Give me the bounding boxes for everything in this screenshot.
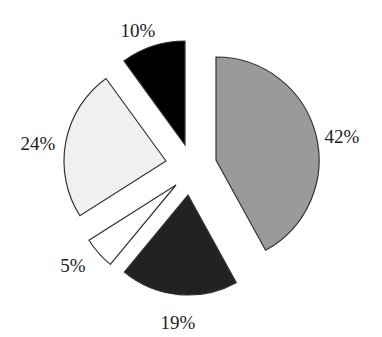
pie-slices [64,41,319,295]
pie-slice-24-percent [64,79,166,216]
pie-slice-42-percent [216,57,319,250]
slice-label-42-percent: 42% [325,126,360,147]
pie-chart: 42%19%5%24%10% [0,0,382,337]
slice-label-24-percent: 24% [21,133,56,154]
slice-label-10-percent: 10% [121,20,156,41]
slice-label-5-percent: 5% [60,255,86,276]
slice-label-19-percent: 19% [161,312,196,333]
